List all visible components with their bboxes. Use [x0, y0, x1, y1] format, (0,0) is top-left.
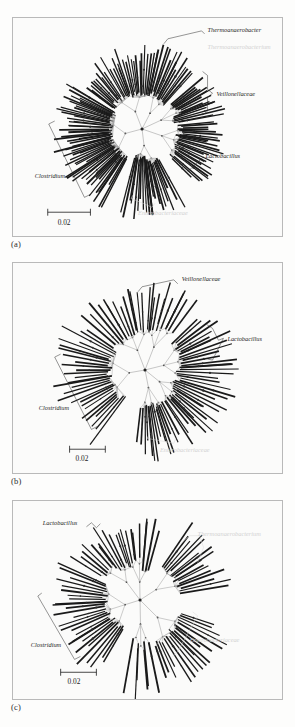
- branch-node: [202, 362, 204, 364]
- branch-node: [82, 365, 84, 367]
- tree-center-node: [140, 127, 143, 130]
- internal-branch: [162, 130, 178, 135]
- branch-node: [193, 617, 195, 619]
- branch-node: [189, 578, 191, 580]
- branch-node: [87, 133, 89, 135]
- branch-node: [106, 388, 108, 390]
- internal-branch: [144, 330, 148, 335]
- branch-node: [190, 160, 192, 162]
- branch-node: [190, 105, 192, 107]
- branch-node: [99, 123, 101, 125]
- internal-branch: [136, 624, 141, 637]
- phylogenetic-tree-c: Lactobacillus Thermoanaerobacterium Clos…: [13, 501, 282, 699]
- internal-branch: [149, 332, 152, 335]
- internal-branch: [159, 104, 163, 105]
- branch-node: [100, 159, 102, 161]
- branch-node: [183, 407, 185, 409]
- branch-node: [91, 628, 93, 630]
- terminal-branch: [81, 315, 115, 344]
- panel-c: Lactobacillus Thermoanaerobacterium Clos…: [12, 500, 283, 700]
- branch-node: [92, 580, 94, 582]
- internal-branch: [110, 573, 126, 582]
- internal-branch: [169, 392, 171, 396]
- branch-node: [182, 94, 183, 95]
- branch-node: [107, 324, 109, 326]
- branch-node: [179, 85, 181, 87]
- branch-node: [173, 85, 175, 87]
- terminal-branch: [176, 371, 233, 374]
- internal-branch: [154, 333, 167, 347]
- label-enterobacteriaceae-b: Enterobacteriaceae: [159, 446, 210, 453]
- terminal-branch: [180, 369, 239, 370]
- label-clostridium-b: Clostridium: [39, 404, 70, 411]
- branch-node: [99, 553, 101, 555]
- branch-node: [171, 428, 173, 430]
- internal-branch: [103, 593, 109, 594]
- branch-node: [83, 120, 85, 122]
- branch-node: [174, 75, 176, 77]
- caption-b: (b): [0, 474, 295, 486]
- branch-node: [83, 585, 85, 587]
- branch-node: [146, 186, 148, 188]
- internal-branch: [136, 637, 138, 643]
- panel-block-a: Thermoanaerobacter Thermoanaerobacterium…: [0, 17, 295, 249]
- label-thermoanaerobacterium-c: Thermoanaerobacterium: [198, 530, 262, 537]
- internal-branch: [137, 350, 145, 370]
- internal-branch: [135, 97, 139, 111]
- scale-bar-label-b: 0.02: [76, 454, 89, 463]
- internal-branch: [142, 129, 162, 136]
- branch-node: [110, 81, 112, 83]
- branch-node: [143, 69, 145, 71]
- terminal-branch: [137, 643, 138, 680]
- internal-branch: [140, 572, 146, 582]
- label-lactobacillus-b: Lactobacillus: [226, 335, 262, 342]
- branch-node: [182, 96, 184, 98]
- internal-branch: [162, 136, 174, 140]
- branch-node: [176, 550, 178, 552]
- branch-node: [163, 79, 165, 81]
- branch-node: [88, 369, 90, 371]
- branch-node: [151, 317, 153, 319]
- label-veillonellaceae-b: Veillonellaceae: [182, 275, 221, 282]
- branch-node: [135, 196, 137, 198]
- branch-node: [82, 605, 84, 607]
- internal-branch: [173, 582, 175, 587]
- figure-root: Thermoanaerobacter Thermoanaerobacterium…: [0, 0, 295, 727]
- branch-node: [170, 562, 172, 564]
- internal-branch: [156, 573, 167, 589]
- internal-branch: [137, 334, 144, 350]
- branch-node: [183, 385, 185, 387]
- internal-branch: [145, 388, 149, 403]
- branch-node: [110, 159, 112, 161]
- branch-node: [118, 170, 120, 172]
- branch-node: [210, 583, 212, 585]
- branch-node: [129, 85, 131, 87]
- branch-node: [190, 406, 192, 408]
- branch-node: [196, 557, 198, 559]
- internal-branch: [127, 338, 132, 340]
- internal-branch: [125, 567, 131, 570]
- branch-node: [203, 358, 205, 360]
- internal-branch: [109, 570, 111, 573]
- label-thermoanaerobacterium: Thermoanaerobacterium: [208, 43, 272, 50]
- branch-node: [196, 124, 197, 125]
- branch-node: [124, 544, 126, 546]
- branch-node: [193, 130, 195, 132]
- branch-node: [185, 150, 187, 152]
- branch-node: [90, 340, 92, 342]
- branch-node: [167, 83, 169, 85]
- internal-branch: [140, 590, 156, 600]
- branch-node: [80, 114, 82, 116]
- branch-node: [192, 96, 193, 97]
- branch-node: [96, 169, 98, 171]
- branch-node: [112, 646, 113, 647]
- branch-node: [90, 626, 92, 628]
- branch-node: [101, 406, 103, 408]
- internal-branch: [162, 136, 172, 150]
- scale-bar-b: 0.02: [70, 446, 106, 463]
- label-clostridium: Clostridium: [35, 172, 66, 179]
- internal-branch: [161, 120, 172, 121]
- branch-node: [101, 571, 103, 573]
- terminal-branch: [141, 408, 143, 444]
- phylogenetic-tree-b: Veillonellaceae Lactobacillus Clostridiu…: [13, 263, 282, 473]
